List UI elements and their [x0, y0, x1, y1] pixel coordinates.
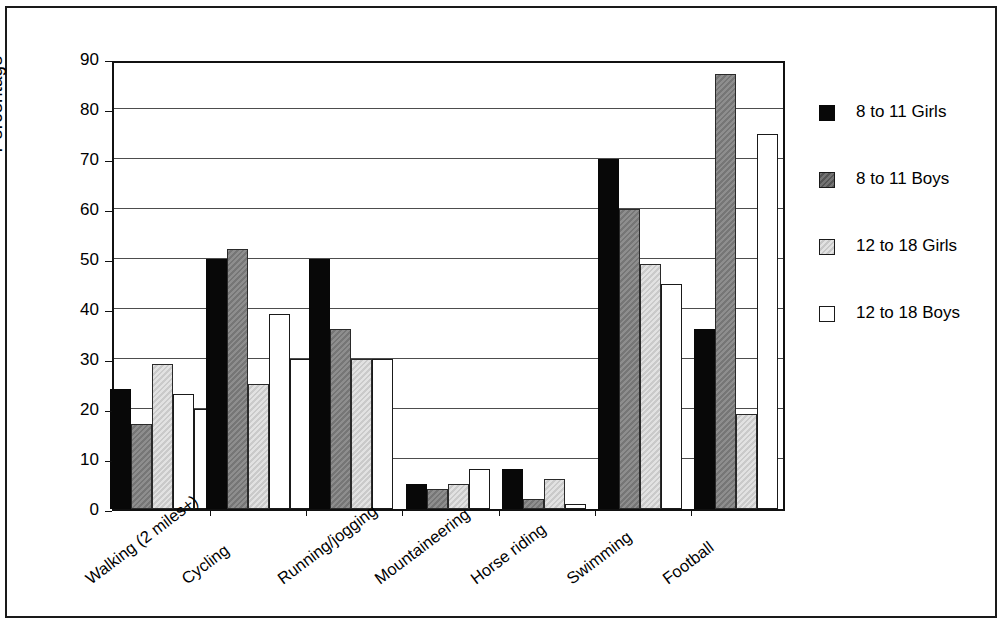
x-axis-tick-mark [306, 509, 307, 516]
bar [372, 359, 393, 509]
bar [110, 389, 131, 509]
bar [227, 249, 248, 509]
bar [427, 489, 448, 509]
figure: 0102030405060708090 Percentage Walking (… [0, 0, 1003, 625]
x-axis-category-label: Cycling [178, 540, 233, 588]
bar [661, 284, 682, 509]
bar [565, 504, 586, 509]
gridline [114, 108, 783, 109]
y-axis-tick-label: 50 [51, 250, 99, 270]
y-axis-tick-label: 70 [51, 150, 99, 170]
bar [406, 484, 427, 509]
y-axis-tick-mark [105, 211, 112, 212]
legend-swatch-icon [819, 172, 835, 188]
y-axis-tick-label: 90 [51, 50, 99, 70]
bar [309, 259, 330, 509]
gridline [114, 158, 783, 159]
y-axis-tick-mark [105, 461, 112, 462]
bar [152, 364, 173, 509]
bar [757, 134, 778, 509]
bar [736, 414, 757, 509]
bar [469, 469, 490, 509]
y-axis-tick-label: 20 [51, 400, 99, 420]
bar [448, 484, 469, 509]
x-axis-tick-mark [499, 509, 500, 516]
bar [330, 329, 351, 509]
bar [502, 469, 523, 509]
bar [269, 314, 290, 509]
plot-area [112, 61, 785, 511]
bar [598, 159, 619, 509]
x-axis-category-label: Running/jogging [274, 501, 381, 588]
y-axis-label: Percentage [0, 4, 7, 204]
gridline [114, 208, 783, 209]
y-axis-tick-mark [105, 111, 112, 112]
x-axis-tick-mark [595, 509, 596, 516]
bar [351, 359, 372, 509]
legend-swatch-icon [819, 239, 835, 255]
y-axis-tick-label: 0 [51, 500, 99, 520]
bar [694, 329, 715, 509]
legend-swatch-icon [819, 105, 835, 121]
y-axis-tick-label: 10 [51, 450, 99, 470]
bar [131, 424, 152, 509]
y-axis-tick-mark [105, 361, 112, 362]
y-axis-tick-label: 60 [51, 200, 99, 220]
bar [544, 479, 565, 509]
legend-swatch-icon [819, 306, 835, 322]
y-axis-tick-mark [105, 261, 112, 262]
legend-item-label: 12 to 18 Girls [856, 236, 957, 256]
y-axis-tick-mark [105, 411, 112, 412]
y-axis-tick-label: 30 [51, 350, 99, 370]
bar [290, 359, 311, 509]
x-axis-tick-mark [402, 509, 403, 516]
bar [715, 74, 736, 509]
legend-item-label: 8 to 11 Girls [856, 102, 946, 122]
y-axis-tick-mark [105, 311, 112, 312]
bar [206, 259, 227, 509]
bar [248, 384, 269, 509]
bar [640, 264, 661, 509]
bar [619, 209, 640, 509]
y-axis-tick-label: 80 [51, 100, 99, 120]
x-axis-tick-mark [210, 509, 211, 516]
legend-item-label: 12 to 18 Boys [856, 303, 960, 323]
y-axis-tick-label: 40 [51, 300, 99, 320]
y-axis-tick-mark [105, 61, 112, 62]
x-axis-category-label: Swimming [563, 527, 635, 588]
x-axis-tick-mark [691, 509, 692, 516]
x-axis-category-label: Football [659, 538, 717, 589]
legend-item-label: 8 to 11 Boys [856, 169, 949, 189]
figure-border: 0102030405060708090 Percentage Walking (… [5, 6, 997, 618]
x-axis-category-label: Horse riding [467, 519, 549, 588]
x-axis-category-label: Mountaineering [371, 505, 473, 589]
y-axis-tick-mark [105, 161, 112, 162]
bar [523, 499, 544, 509]
y-axis-tick-mark [105, 511, 112, 512]
